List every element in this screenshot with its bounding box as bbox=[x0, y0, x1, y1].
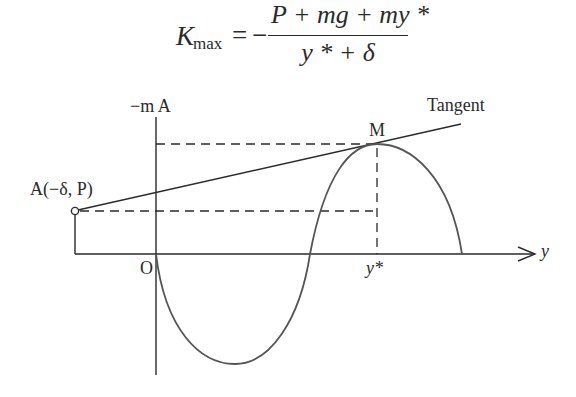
point-m-label: M bbox=[369, 121, 385, 139]
horizontal-axis-label: y bbox=[541, 242, 549, 260]
point-a-marker bbox=[71, 207, 78, 214]
origin-label: O bbox=[140, 259, 153, 277]
tangent-line bbox=[78, 124, 461, 210]
point-a-label: A(−δ, P) bbox=[30, 180, 93, 198]
vertical-axis-label: −m A bbox=[130, 97, 171, 115]
tangent-label: Tangent bbox=[427, 96, 485, 114]
y-star-label: y* bbox=[366, 259, 383, 277]
